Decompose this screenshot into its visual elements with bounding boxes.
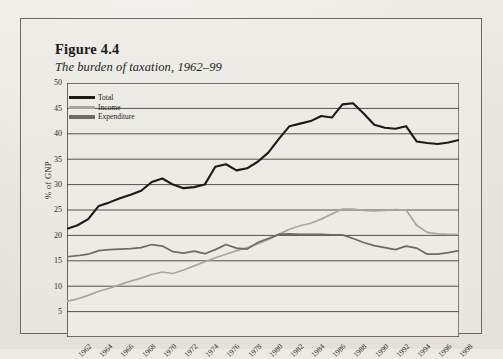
legend-item-total: Total — [69, 93, 135, 103]
legend-swatch-icon — [69, 115, 95, 118]
y-tick-label: 5 — [40, 307, 62, 316]
x-tick-label: 1982 — [288, 342, 305, 359]
y-tick-label: 45 — [40, 104, 62, 113]
y-tick-label: 20 — [40, 231, 62, 240]
x-tick-label: 1984 — [309, 342, 326, 359]
legend-label: Expenditure — [98, 112, 135, 122]
y-tick-label: 10 — [40, 282, 62, 291]
x-tick-label: 1996 — [437, 342, 454, 359]
legend-swatch-icon — [69, 96, 95, 99]
y-tick-label: 35 — [40, 155, 62, 164]
x-tick-label: 1964 — [98, 342, 115, 359]
x-tick-label: 1976 — [225, 342, 242, 359]
y-tick-label: 30 — [40, 180, 62, 189]
x-tick-label: 1990 — [373, 342, 390, 359]
legend-swatch-icon — [69, 106, 95, 109]
x-tick-label: 1974 — [204, 342, 221, 359]
x-tick-label: 1988 — [352, 342, 369, 359]
legend-item-income: Income — [69, 103, 135, 113]
x-tick-label: 1972 — [182, 342, 199, 359]
y-tick-label: 15 — [40, 256, 62, 265]
legend-item-expenditure: Expenditure — [69, 112, 135, 122]
y-tick-label: 50 — [40, 78, 62, 87]
x-tick-label: 1986 — [331, 342, 348, 359]
figure-caption: The burden of taxation, 1962–99 — [55, 60, 222, 75]
x-tick-label: 1980 — [267, 342, 284, 359]
figure-frame: Figure 4.4 The burden of taxation, 1962–… — [20, 18, 482, 334]
x-tick-label: 1966 — [119, 342, 136, 359]
x-tick-label: 1978 — [246, 342, 263, 359]
x-tick-label: 1994 — [415, 342, 432, 359]
x-tick-label: 1992 — [394, 342, 411, 359]
legend-label: Total — [98, 93, 113, 103]
figure-number: Figure 4.4 — [55, 41, 120, 58]
legend-label: Income — [98, 103, 121, 113]
y-tick-label: 40 — [40, 129, 62, 138]
y-tick-label: 25 — [40, 205, 62, 214]
x-tick-label: 1968 — [140, 342, 157, 359]
chart-legend: TotalIncomeExpenditure — [69, 93, 135, 122]
x-tick-label: 1962 — [76, 342, 93, 359]
x-tick-label: 1970 — [161, 342, 178, 359]
x-tick-label: 1998 — [458, 342, 475, 359]
